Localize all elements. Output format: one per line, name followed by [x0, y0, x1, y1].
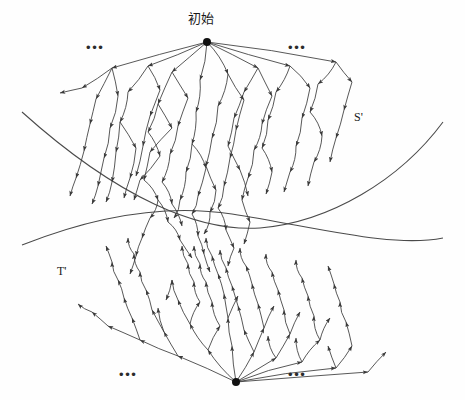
- tree-edge: [162, 182, 172, 204]
- tree-edge: [266, 254, 272, 272]
- forward-root: [203, 38, 211, 46]
- tree-edge: [244, 68, 258, 92]
- tree-edge: [190, 324, 208, 350]
- tree-edge: [136, 238, 142, 256]
- tree-edge: [104, 128, 110, 158]
- tree-edge: [240, 248, 246, 266]
- tree-edge: [180, 172, 186, 200]
- tree-edge: [186, 144, 192, 172]
- tree-edge: [110, 96, 118, 128]
- tree-edge: [368, 352, 386, 372]
- tree-edge: [84, 124, 90, 151]
- tree-edge: [196, 80, 200, 112]
- tree-edge: [198, 168, 206, 196]
- tree-edge: [224, 158, 230, 186]
- tree-edge: [140, 272, 146, 290]
- tree-edge: [268, 336, 276, 358]
- tree-edge: [218, 74, 228, 106]
- tree-edge: [302, 340, 320, 362]
- tree-edge: [120, 122, 136, 148]
- tree-edge: [228, 118, 234, 146]
- tree-edge: [96, 68, 112, 99]
- tree-edge: [144, 180, 158, 200]
- tree-edge: [290, 66, 310, 88]
- tree-edge: [236, 368, 336, 382]
- tree-edge: [142, 218, 150, 238]
- ellipsis-bottom-left: •••: [119, 368, 137, 381]
- tree-edge: [106, 182, 112, 202]
- tree-edge: [330, 138, 336, 162]
- tree-edge: [258, 304, 264, 328]
- tree-edge: [92, 312, 108, 326]
- tree-edge: [178, 98, 188, 126]
- tree-edge: [218, 274, 224, 294]
- tree-edge: [212, 106, 218, 138]
- tree-edge: [200, 264, 206, 282]
- tree-edge: [178, 300, 190, 324]
- root-nodes: [203, 38, 240, 386]
- tree-edge: [152, 310, 164, 332]
- tree-edge: [120, 92, 128, 122]
- tree-edge: [172, 72, 188, 98]
- tree-edge: [112, 68, 118, 96]
- tree-edge: [168, 222, 180, 240]
- tree-edge: [232, 346, 236, 382]
- tree-edge: [328, 346, 336, 368]
- tree-edge: [314, 136, 322, 162]
- tree-edge: [164, 332, 178, 356]
- tree-edge: [192, 214, 198, 236]
- tree-edge: [70, 178, 76, 196]
- tree-edge: [192, 196, 198, 214]
- tree-edge: [166, 280, 172, 300]
- tree-edge: [258, 68, 272, 96]
- tree-edge: [112, 42, 207, 68]
- tree-edge: [170, 126, 178, 154]
- tree-edge: [310, 84, 318, 112]
- tree-edge: [82, 68, 112, 88]
- tree-edge: [228, 248, 234, 266]
- tree-edge: [134, 254, 140, 272]
- tree-edge: [302, 88, 310, 118]
- tree-edge: [346, 322, 352, 346]
- tree-edge: [290, 146, 296, 172]
- backward-root: [232, 378, 240, 386]
- tree-edge: [302, 278, 308, 296]
- tree-edge: [60, 88, 82, 93]
- tree-edge: [314, 316, 320, 340]
- tree-edge: [210, 190, 216, 212]
- tree-edge: [206, 238, 212, 256]
- tree-edge: [130, 256, 136, 274]
- tree-edge: [128, 66, 148, 92]
- tree-edge: [290, 312, 300, 334]
- boundary-curves: [22, 112, 443, 245]
- tree-edge: [226, 268, 232, 286]
- tree-edge: [266, 172, 272, 194]
- tree-edge: [182, 246, 188, 264]
- tree-edge: [296, 118, 302, 146]
- tree-edge: [90, 99, 96, 124]
- tree-edge: [226, 230, 234, 248]
- ellipsis-bottom-right: •••: [288, 368, 306, 381]
- tree-edge: [320, 318, 330, 340]
- tree-edge: [334, 284, 340, 302]
- tree-edge: [296, 338, 302, 362]
- tree-edge: [116, 122, 120, 152]
- tree-edge: [146, 290, 152, 310]
- tree-edge: [158, 104, 172, 128]
- tree-edge: [344, 82, 352, 110]
- tree-edge: [162, 154, 170, 182]
- tree-edge: [148, 42, 207, 66]
- tree-edge: [336, 62, 352, 82]
- tree-edge: [198, 236, 204, 254]
- tree-edge: [208, 326, 220, 350]
- tree-edge: [228, 318, 232, 346]
- tree-edge: [192, 144, 206, 168]
- tree-edge: [236, 352, 254, 382]
- tree-edge: [212, 302, 220, 326]
- tree-edge: [254, 124, 262, 150]
- tree-edge: [124, 178, 130, 198]
- tree-edge: [308, 162, 314, 186]
- tree-edge: [206, 138, 212, 166]
- tree-edge: [130, 148, 136, 178]
- tree-edge: [218, 186, 224, 208]
